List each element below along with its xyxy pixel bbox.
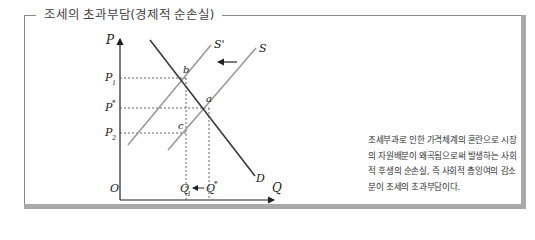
y-axis-label: P — [105, 33, 115, 47]
p1-subscript: 1 — [112, 79, 116, 87]
p2-subscript: 2 — [111, 134, 116, 142]
demand-label: D — [255, 172, 265, 185]
pstar-superscript: * — [112, 99, 116, 107]
qstar-superscript: * — [214, 180, 218, 188]
x-axis-label: Q — [272, 181, 282, 195]
supply-shifted-label: S' — [214, 38, 225, 51]
supply-shifted-curve — [128, 45, 211, 145]
point-a-label: a — [206, 93, 212, 104]
supply-curve — [168, 48, 256, 150]
origin-label: O — [110, 182, 119, 195]
description-text: 조세부과로 인한 가격체계의 혼란으로 시장의 자원배분이 왜곡됨으로써 발생하… — [368, 133, 520, 195]
point-c-label: c — [178, 120, 184, 131]
supply-label: S — [259, 42, 267, 55]
q1-subscript: 1 — [187, 190, 191, 198]
point-b-label: b — [183, 64, 189, 75]
